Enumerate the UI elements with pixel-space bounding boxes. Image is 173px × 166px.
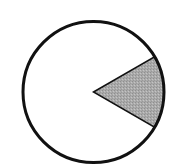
circle-sector-diagram bbox=[0, 0, 173, 166]
